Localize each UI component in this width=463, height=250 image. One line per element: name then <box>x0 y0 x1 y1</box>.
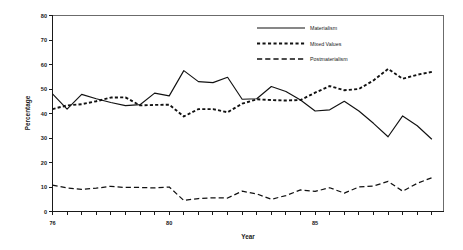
legend-label-materialism: Materialism <box>310 25 338 31</box>
y-tick-label: 30 <box>41 135 47 141</box>
chart-figure: 01020304050607080 768085 Percentage Year… <box>0 0 463 250</box>
x-tick-label: 85 <box>312 220 318 226</box>
x-tick-label: 76 <box>49 220 55 226</box>
line-chart: 01020304050607080 768085 Percentage Year… <box>0 0 463 250</box>
legend-label-mixed-values: Mixed Values <box>310 41 342 47</box>
y-axis-title: Percentage <box>24 95 32 130</box>
y-tick-label: 80 <box>41 13 47 19</box>
y-tick-label: 70 <box>41 37 47 43</box>
y-tick-label: 60 <box>41 62 47 68</box>
y-tick-label: 10 <box>41 184 47 190</box>
x-tick-label: 80 <box>166 220 172 226</box>
x-axis-title: Year <box>241 233 255 240</box>
x-axis-tick-labels: 768085 <box>49 220 318 226</box>
series-line-postmaterialism <box>53 178 432 201</box>
chart-legend: MaterialismMixed ValuesPostmaterialism <box>257 25 348 62</box>
legend-label-postmaterialism: Postmaterialism <box>310 56 348 62</box>
y-axis-ticks: 01020304050607080 <box>41 13 53 215</box>
data-series-group <box>53 69 432 201</box>
y-tick-label: 40 <box>41 111 47 117</box>
series-line-mixed-values <box>53 69 432 117</box>
y-tick-label: 0 <box>44 209 47 215</box>
y-tick-label: 20 <box>41 160 47 166</box>
series-line-materialism <box>53 71 432 140</box>
y-tick-label: 50 <box>41 86 47 92</box>
